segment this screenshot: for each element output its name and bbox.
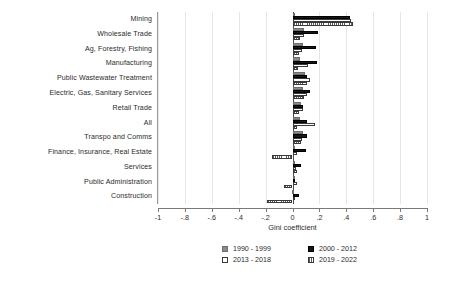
bar bbox=[272, 155, 293, 158]
category-label: Manufacturing bbox=[0, 59, 152, 67]
bar bbox=[267, 200, 293, 203]
category-label: Electric, Gas, Sanitary Services bbox=[0, 89, 152, 97]
x-axis-tick-label: .2 bbox=[316, 213, 322, 222]
plot-area bbox=[158, 12, 427, 204]
x-axis-tick-label: -.6 bbox=[208, 213, 216, 222]
x-axis-tick-label: -.8 bbox=[181, 213, 189, 222]
gridline bbox=[266, 12, 267, 204]
x-axis-tick bbox=[400, 208, 401, 212]
legend-item-2000-2012: 2000 - 2012 bbox=[308, 245, 394, 253]
bar bbox=[293, 22, 354, 25]
x-axis-tick-label: 0 bbox=[291, 213, 295, 222]
legend-row: 1990 - 1999 2000 - 2012 bbox=[222, 243, 422, 254]
x-axis-tick bbox=[293, 208, 294, 212]
category-label: Transpo and Comms bbox=[0, 133, 152, 141]
x-axis-tick bbox=[373, 208, 374, 212]
legend-item-2013-2018: 2013 - 2018 bbox=[222, 256, 308, 264]
category-label: Public Wastewater Treatment bbox=[0, 74, 152, 82]
legend-item-1990-1999: 1990 - 1999 bbox=[222, 245, 308, 253]
gray-swatch-icon bbox=[222, 246, 228, 252]
y-axis-spine bbox=[157, 12, 158, 204]
legend-item-2019-2022: 2019 - 2022 bbox=[308, 256, 394, 264]
bar bbox=[293, 141, 301, 144]
x-axis-tick bbox=[346, 208, 347, 212]
gridline bbox=[212, 12, 213, 204]
bar bbox=[293, 111, 300, 114]
category-label: Construction bbox=[0, 192, 152, 200]
bar bbox=[293, 152, 298, 155]
gridline bbox=[158, 12, 159, 204]
legend-label: 2019 - 2022 bbox=[319, 256, 357, 264]
bar bbox=[293, 170, 298, 173]
category-label: Ag, Forestry, Fishing bbox=[0, 45, 152, 53]
x-axis-tick-label: .8 bbox=[397, 213, 403, 222]
gridline bbox=[346, 12, 347, 204]
x-axis-tick bbox=[239, 208, 240, 212]
chart-legend: 1990 - 1999 2000 - 2012 2013 - 2018 2019… bbox=[222, 243, 422, 265]
category-axis-labels: MiningWholesale TradeAg, Forestry, Fishi… bbox=[0, 12, 152, 204]
x-axis-tick bbox=[185, 208, 186, 212]
legend-label: 2013 - 2018 bbox=[233, 256, 271, 264]
gridline bbox=[373, 12, 374, 204]
bar bbox=[293, 67, 298, 70]
bar bbox=[284, 185, 292, 188]
bar bbox=[293, 96, 304, 99]
gridline bbox=[400, 12, 401, 204]
category-label: Retail Trade bbox=[0, 104, 152, 112]
bar bbox=[293, 182, 298, 185]
category-label: Mining bbox=[0, 15, 152, 23]
black-swatch-icon bbox=[308, 246, 314, 252]
x-axis-tick-label: -.2 bbox=[261, 213, 269, 222]
category-label: Services bbox=[0, 163, 152, 171]
legend-label: 1990 - 1999 bbox=[233, 245, 271, 253]
bar bbox=[293, 37, 300, 40]
hatched-swatch-icon bbox=[308, 257, 314, 263]
category-label: Wholesale Trade bbox=[0, 30, 152, 38]
gridline bbox=[319, 12, 320, 204]
category-label: All bbox=[0, 119, 152, 127]
gridline bbox=[185, 12, 186, 204]
x-axis-tick-label: -1 bbox=[155, 213, 161, 222]
x-axis-tick-label: .4 bbox=[343, 213, 349, 222]
hollow-swatch-icon bbox=[222, 257, 228, 263]
category-label: Public Administration bbox=[0, 178, 152, 186]
x-axis-tick bbox=[319, 208, 320, 212]
x-axis-tick bbox=[212, 208, 213, 212]
x-axis-title: Gini coefficient bbox=[158, 223, 427, 232]
x-axis-tick-label: 1 bbox=[425, 213, 429, 222]
category-label: Finance, Insurance, Real Estate bbox=[0, 148, 152, 156]
bar bbox=[293, 82, 307, 85]
bar bbox=[293, 197, 296, 200]
gini-coefficient-bar-chart: MiningWholesale TradeAg, Forestry, Fishi… bbox=[0, 0, 449, 285]
x-axis-tick bbox=[427, 208, 428, 212]
bar bbox=[293, 52, 299, 55]
bar bbox=[293, 126, 297, 129]
legend-label: 2000 - 2012 bbox=[319, 245, 357, 253]
x-axis-tick-label: -.4 bbox=[234, 213, 242, 222]
x-axis-tick bbox=[266, 208, 267, 212]
x-axis-tick bbox=[158, 208, 159, 212]
gridline bbox=[427, 12, 428, 204]
legend-row: 2013 - 2018 2019 - 2022 bbox=[222, 254, 422, 265]
x-axis-tick-label: .6 bbox=[370, 213, 376, 222]
gridline bbox=[239, 12, 240, 204]
